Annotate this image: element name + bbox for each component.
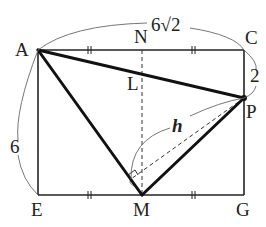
label-L: L xyxy=(127,73,139,94)
arc-AC-right xyxy=(190,28,244,50)
label-G: G xyxy=(236,199,250,220)
label-E: E xyxy=(31,199,43,220)
rectangle-ACGE xyxy=(38,50,244,195)
dimension-arcs xyxy=(18,23,257,195)
triangle-APM xyxy=(38,50,244,195)
label-M: M xyxy=(133,199,150,220)
measure-AC: 6√2 xyxy=(151,14,180,35)
measure-AE: 6 xyxy=(10,136,20,157)
arc-h xyxy=(131,128,170,179)
label-A: A xyxy=(15,39,29,60)
measure-CP: 2 xyxy=(250,65,260,86)
right-angle-marker xyxy=(128,170,138,175)
arc-AC xyxy=(38,23,147,50)
label-N: N xyxy=(134,26,148,47)
label-C: C xyxy=(245,27,258,48)
arc-AE xyxy=(18,50,38,140)
segment-PM xyxy=(142,98,244,195)
measure-h: h xyxy=(172,115,183,136)
geometry-diagram: A N C L P E M G 6√2 6 2 h xyxy=(0,0,266,227)
label-P: P xyxy=(246,101,257,122)
arc-AE-lower xyxy=(18,155,38,195)
